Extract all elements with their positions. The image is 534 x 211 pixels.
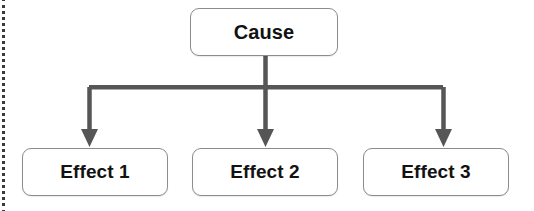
node-cause[interactable]: Cause bbox=[190, 8, 338, 56]
node-effect-1-label: Effect 1 bbox=[60, 161, 129, 183]
diagram-canvas: Cause Effect 1 Effect 2 Effect 3 bbox=[0, 0, 534, 211]
arrowhead-right bbox=[435, 129, 452, 147]
arrowhead-center bbox=[257, 129, 274, 147]
node-effect-3[interactable]: Effect 3 bbox=[363, 148, 509, 196]
node-effect-3-label: Effect 3 bbox=[401, 161, 470, 183]
node-effect-2-label: Effect 2 bbox=[230, 161, 299, 183]
arrowhead-left bbox=[81, 129, 98, 147]
node-effect-2[interactable]: Effect 2 bbox=[192, 148, 338, 196]
node-effect-1[interactable]: Effect 1 bbox=[22, 148, 168, 196]
node-cause-label: Cause bbox=[234, 21, 295, 44]
